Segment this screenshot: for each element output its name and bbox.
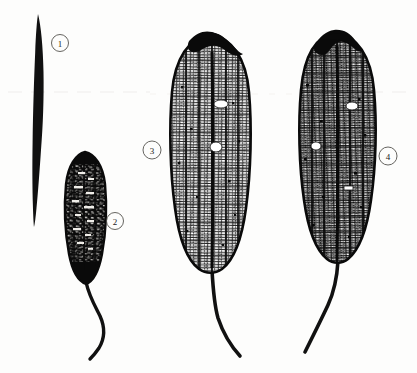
illustration-plate: 1 2 3 4: [0, 0, 417, 373]
plate-canvas: 1 2 3 4: [0, 0, 417, 373]
